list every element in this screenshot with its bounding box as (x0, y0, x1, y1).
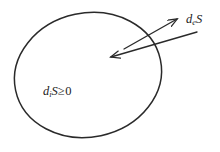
entropy-inflow-arrow-line (111, 32, 197, 57)
entropy-exchange-label: deS (186, 13, 202, 28)
entropy-outflow-arrow (124, 19, 177, 49)
entropy-production-label: diS≥0 (43, 85, 71, 100)
entropy-production-variable: S (52, 84, 58, 98)
entropy-diagram-figure: deS diS≥0 (0, 0, 220, 152)
system-boundary-ellipse (3, 0, 174, 151)
entropy-inflow-arrow (111, 32, 197, 57)
system-boundary (3, 0, 174, 151)
entropy-exchange-variable: S (196, 12, 202, 26)
entropy-production-value: 0 (65, 84, 71, 98)
entropy-outflow-arrow-line (124, 19, 177, 49)
